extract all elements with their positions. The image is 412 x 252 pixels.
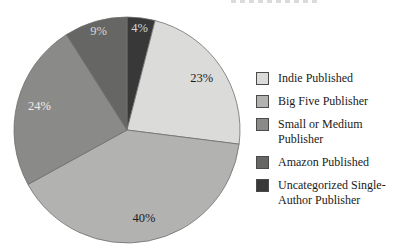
legend-label: Amazon Published [278, 155, 369, 170]
legend-item-big-five-publisher: Big Five Publisher [256, 94, 406, 109]
pie-value-label-big-five-publisher: 40% [132, 211, 155, 225]
legend-item-indie-published: Indie Published [256, 71, 406, 86]
pie-value-label-indie-published: 23% [190, 71, 213, 85]
legend-swatch-big-five-publisher [256, 95, 269, 108]
legend-swatch-uncategorized-single-author-publisher [256, 179, 269, 192]
legend-item-uncategorized-single-author-publisher: Uncategorized Single-Author Publisher [256, 178, 406, 208]
legend-label: Uncategorized Single-Author Publisher [278, 178, 406, 208]
legend-label: Indie Published [278, 71, 353, 86]
chart-legend: Indie Published Big Five Publisher Small… [256, 71, 406, 208]
pie-value-label-amazon-published: 9% [90, 24, 107, 38]
legend-swatch-indie-published [256, 72, 269, 85]
pie-chart-figure: 4%23%40%24%9% Indie Published Big Five P… [0, 0, 412, 252]
legend-swatch-small-or-medium-publisher [256, 118, 269, 131]
legend-item-amazon-published: Amazon Published [256, 155, 406, 170]
legend-swatch-amazon-published [256, 156, 269, 169]
legend-item-small-or-medium-publisher: Small or Medium Publisher [256, 117, 406, 147]
pie-value-label-uncategorized-single-author-publisher: 4% [131, 21, 148, 35]
legend-label: Small or Medium Publisher [278, 117, 406, 147]
pie-value-label-small-or-medium-publisher: 24% [28, 99, 51, 113]
legend-label: Big Five Publisher [278, 94, 368, 109]
